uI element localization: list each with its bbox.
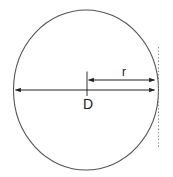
radius-label: r <box>122 65 126 79</box>
circle-diagram-canvas: r D <box>0 0 173 177</box>
diameter-label: D <box>83 96 93 112</box>
circle-diagram-container: r D <box>0 0 173 177</box>
